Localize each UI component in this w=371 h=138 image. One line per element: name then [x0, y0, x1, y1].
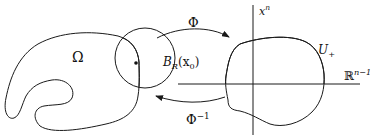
u-plus-hatch [226, 37, 325, 125]
u-region [226, 37, 325, 125]
center-point-x0 [134, 61, 138, 65]
omega-label: Ω [72, 50, 84, 64]
u-subscript: + [328, 49, 335, 59]
ball-label-main: B [163, 55, 172, 69]
ball-label-arg: (x [178, 55, 189, 69]
phi-inverse-main: Φ [186, 112, 197, 127]
r-exponent: n−1 [354, 67, 371, 77]
u-main: U [318, 43, 328, 57]
ball-label-close: ) [195, 55, 200, 69]
phi-label: Φ [188, 16, 199, 29]
forward-map-arrow [157, 29, 229, 38]
r-main: ℝ [344, 69, 354, 83]
ball-omega-intersection-hatch [5, 33, 139, 131]
xn-axis-label: xn [259, 6, 270, 17]
phi-inverse-exponent: −1 [197, 111, 210, 121]
u-plus-label: U+ [318, 44, 335, 56]
rn-1-label: ℝn−1 [344, 70, 371, 82]
xn-exponent: n [265, 3, 270, 12]
phi-inverse-label: Φ−1 [186, 113, 210, 126]
inverse-map-arrow [156, 96, 225, 102]
omega-region [5, 33, 139, 131]
ball-label: BR(x0) [163, 56, 199, 68]
